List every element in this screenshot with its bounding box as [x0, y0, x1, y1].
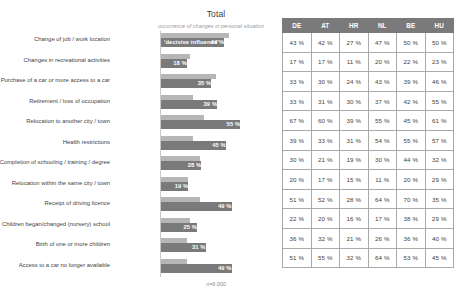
table-row: 51 %55 %32 %64 %53 %45 %: [283, 248, 454, 268]
table-cell: 52 %: [311, 189, 340, 209]
chart-row-label: Receipt of driving licence: [0, 200, 110, 206]
table-cell: 38 %: [397, 209, 426, 229]
table-col-header-hr: HR: [340, 19, 369, 33]
table-cell: 33 %: [311, 130, 340, 150]
country-table-wrapper: DEATHRNLBEHU 43 %42 %27 %47 %50 %50 %17 …: [282, 18, 454, 268]
chart-sample-size-note: n=6.000: [160, 281, 272, 287]
chart-row-label: Birth of one or more children: [0, 241, 110, 247]
table-cell: 30 %: [368, 150, 397, 170]
table-cell: 21 %: [311, 150, 340, 170]
table-cell: 55 %: [368, 111, 397, 131]
table-cell: 17 %: [283, 52, 312, 72]
chart-row-bars: 44 %'decisive influence': [161, 33, 271, 50]
bar-value-label: 55 %: [161, 120, 243, 129]
table-cell: 55 %: [397, 130, 426, 150]
bar-value-label: 28 %: [161, 161, 204, 170]
table-row: 39 %33 %31 %54 %55 %57 %: [283, 130, 454, 150]
table-row: 51 %52 %28 %64 %70 %35 %: [283, 189, 454, 209]
table-row: 33 %30 %24 %43 %39 %46 %: [283, 72, 454, 92]
table-row: 20 %17 %15 %11 %20 %29 %: [283, 170, 454, 190]
table-cell: 32 %: [340, 248, 369, 268]
table-cell: 31 %: [340, 130, 369, 150]
table-cell: 40 %: [425, 228, 454, 248]
table-cell: 50 %: [425, 33, 454, 53]
table-cell: 30 %: [340, 91, 369, 111]
table-row: 36 %32 %21 %26 %36 %40 %: [283, 228, 454, 248]
table-cell: 53 %: [397, 248, 426, 268]
chart-row-label: Children began/changed (nursery) school: [0, 221, 110, 227]
chart-row: Health restrictions45 %: [0, 134, 272, 155]
bar-value-label: 45 %: [161, 141, 229, 150]
table-cell: 43 %: [368, 72, 397, 92]
chart-row: Purchase of a car or more access to a ca…: [0, 72, 272, 93]
chart-title: Total: [160, 9, 272, 19]
table-cell: 35 %: [425, 189, 454, 209]
table-cell: 39 %: [397, 72, 426, 92]
bar-value-label: 49 %: [161, 202, 235, 211]
chart-row-bars: 35 %: [161, 74, 271, 91]
chart-row: Changes in recreational activities18 %: [0, 52, 272, 73]
chart-row-bars: 31 %: [161, 238, 271, 255]
table-col-header-hu: HU: [425, 19, 454, 33]
table-cell: 57 %: [425, 130, 454, 150]
table-cell: 16 %: [340, 209, 369, 229]
table-cell: 17 %: [311, 52, 340, 72]
chart-row-bars: 39 %: [161, 95, 271, 112]
chart-row-bars: 49 %: [161, 259, 271, 276]
chart-row: Relocation to another city / town55 %: [0, 113, 272, 134]
table-cell: 11 %: [340, 52, 369, 72]
chart-row-label: Retirement / loss of occupation: [0, 98, 110, 104]
table-cell: 27 %: [340, 33, 369, 53]
chart-row-bars: 49 %: [161, 197, 271, 214]
table-cell: 45 %: [425, 248, 454, 268]
chart-row: Birth of one or more children31 %: [0, 236, 272, 257]
chart-row-label: Health restrictions: [0, 139, 110, 145]
table-cell: 17 %: [311, 170, 340, 190]
table-row: 30 %21 %19 %30 %44 %32 %: [283, 150, 454, 170]
table-cell: 37 %: [368, 91, 397, 111]
table-cell: 20 %: [311, 209, 340, 229]
chart-rows: Change of job / work location44 %'decisi…: [0, 31, 272, 277]
chart-row-label: Changes in recreational activities: [0, 57, 110, 63]
table-cell: 46 %: [425, 72, 454, 92]
chart-row-label: Purchase of a car or more access to a ca…: [0, 77, 110, 83]
table-cell: 70 %: [397, 189, 426, 209]
chart-row-bars: 19 %: [161, 177, 271, 194]
table-cell: 43 %: [283, 33, 312, 53]
bar-value-label: 19 %: [161, 182, 191, 191]
table-cell: 42 %: [397, 91, 426, 111]
table-cell: 22 %: [397, 52, 426, 72]
table-cell: 33 %: [283, 91, 312, 111]
table-cell: 51 %: [283, 189, 312, 209]
bar-chart: Total occurrence of changes in personal …: [0, 0, 272, 301]
table-cell: 39 %: [283, 130, 312, 150]
chart-row-label: Access to a car no longer available: [0, 262, 110, 268]
chart-row-label: Relocation within the same city / town: [0, 180, 110, 186]
bar-value-label: 25 %: [161, 223, 200, 232]
bar-value-label: 18 %: [161, 59, 190, 68]
table-cell: 42 %: [311, 33, 340, 53]
table-cell: 28 %: [340, 189, 369, 209]
table-cell: 11 %: [368, 170, 397, 190]
chart-row-bars: 28 %: [161, 156, 271, 173]
table-cell: 24 %: [340, 72, 369, 92]
table-cell: 36 %: [397, 228, 426, 248]
table-cell: 23 %: [425, 52, 454, 72]
country-data-table: DEATHRNLBEHU 43 %42 %27 %47 %50 %50 %17 …: [282, 18, 454, 268]
table-cell: 15 %: [340, 170, 369, 190]
table-cell: 55 %: [311, 248, 340, 268]
chart-row-bars: 18 %: [161, 54, 271, 71]
table-cell: 39 %: [340, 111, 369, 131]
table-cell: 64 %: [368, 248, 397, 268]
infographic-page: Total occurrence of changes in personal …: [0, 0, 460, 301]
table-row: 43 %42 %27 %47 %50 %50 %: [283, 33, 454, 53]
chart-row: Retirement / loss of occupation39 %: [0, 93, 272, 114]
table-cell: 33 %: [283, 72, 312, 92]
table-cell: 20 %: [397, 170, 426, 190]
table-cell: 54 %: [368, 130, 397, 150]
chart-row-label: Completion of schooling / training / deg…: [0, 159, 110, 165]
chart-row-bars: 45 %: [161, 136, 271, 153]
table-row: 33 %31 %30 %37 %42 %55 %: [283, 91, 454, 111]
chart-subtitle: occurrence of changes in personal situat…: [158, 23, 276, 29]
chart-row: Change of job / work location44 %'decisi…: [0, 31, 272, 52]
